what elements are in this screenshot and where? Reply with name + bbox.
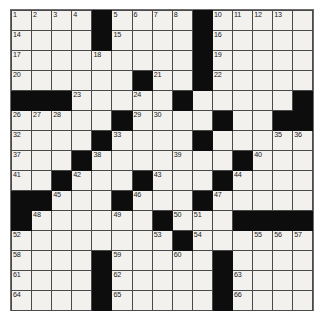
crossword-cell[interactable] xyxy=(72,191,92,211)
crossword-cell[interactable]: 54 xyxy=(192,231,212,251)
crossword-cell[interactable] xyxy=(273,191,293,211)
crossword-cell[interactable] xyxy=(92,171,112,191)
crossword-cell[interactable] xyxy=(132,251,152,271)
crossword-cell[interactable] xyxy=(212,211,232,231)
crossword-cell[interactable]: 55 xyxy=(253,231,273,251)
crossword-cell[interactable]: 65 xyxy=(112,291,132,311)
crossword-cell[interactable]: 49 xyxy=(112,211,132,231)
crossword-cell[interactable] xyxy=(72,271,92,291)
crossword-cell[interactable] xyxy=(293,11,313,31)
crossword-cell[interactable] xyxy=(112,91,132,111)
crossword-cell[interactable] xyxy=(52,51,72,71)
crossword-cell[interactable] xyxy=(32,291,52,311)
crossword-cell[interactable] xyxy=(253,271,273,291)
crossword-cell[interactable] xyxy=(273,291,293,311)
crossword-cell[interactable] xyxy=(32,71,52,91)
crossword-cell[interactable]: 61 xyxy=(12,271,32,291)
crossword-cell[interactable] xyxy=(152,131,172,151)
crossword-cell[interactable] xyxy=(273,151,293,171)
crossword-cell[interactable] xyxy=(192,171,212,191)
crossword-cell[interactable] xyxy=(172,191,192,211)
crossword-cell[interactable] xyxy=(273,91,293,111)
crossword-cell[interactable]: 60 xyxy=(172,251,192,271)
crossword-cell[interactable]: 57 xyxy=(293,231,313,251)
crossword-cell[interactable] xyxy=(273,171,293,191)
crossword-cell[interactable] xyxy=(293,191,313,211)
crossword-cell[interactable] xyxy=(172,271,192,291)
crossword-cell[interactable]: 40 xyxy=(253,151,273,171)
crossword-cell[interactable] xyxy=(132,151,152,171)
crossword-cell[interactable] xyxy=(112,171,132,191)
crossword-cell[interactable] xyxy=(32,171,52,191)
crossword-cell[interactable] xyxy=(233,51,253,71)
crossword-cell[interactable]: 48 xyxy=(32,211,52,231)
crossword-cell[interactable]: 64 xyxy=(12,291,32,311)
crossword-cell[interactable]: 2 xyxy=(32,11,52,31)
crossword-cell[interactable] xyxy=(72,51,92,71)
crossword-cell[interactable] xyxy=(253,171,273,191)
crossword-cell[interactable]: 38 xyxy=(92,151,112,171)
crossword-cell[interactable] xyxy=(52,251,72,271)
crossword-cell[interactable] xyxy=(273,31,293,51)
crossword-cell[interactable]: 41 xyxy=(12,171,32,191)
crossword-cell[interactable] xyxy=(92,91,112,111)
crossword-cell[interactable] xyxy=(273,71,293,91)
crossword-cell[interactable] xyxy=(132,131,152,151)
crossword-cell[interactable] xyxy=(72,111,92,131)
crossword-cell[interactable]: 14 xyxy=(12,31,32,51)
crossword-cell[interactable]: 33 xyxy=(112,131,132,151)
crossword-cell[interactable] xyxy=(293,271,313,291)
crossword-cell[interactable] xyxy=(233,231,253,251)
crossword-cell[interactable]: 21 xyxy=(152,71,172,91)
crossword-cell[interactable] xyxy=(72,231,92,251)
crossword-cell[interactable] xyxy=(52,271,72,291)
crossword-cell[interactable]: 3 xyxy=(52,11,72,31)
crossword-cell[interactable]: 16 xyxy=(212,31,232,51)
crossword-cell[interactable] xyxy=(253,191,273,211)
crossword-cell[interactable] xyxy=(273,251,293,271)
crossword-cell[interactable] xyxy=(72,71,92,91)
crossword-cell[interactable] xyxy=(72,131,92,151)
crossword-cell[interactable]: 45 xyxy=(52,191,72,211)
crossword-cell[interactable]: 6 xyxy=(132,11,152,31)
crossword-cell[interactable] xyxy=(192,271,212,291)
crossword-cell[interactable] xyxy=(293,51,313,71)
crossword-cell[interactable] xyxy=(212,91,232,111)
crossword-cell[interactable] xyxy=(293,251,313,271)
crossword-cell[interactable] xyxy=(152,51,172,71)
crossword-cell[interactable]: 26 xyxy=(12,111,32,131)
crossword-cell[interactable]: 29 xyxy=(132,111,152,131)
crossword-cell[interactable] xyxy=(132,231,152,251)
crossword-cell[interactable]: 30 xyxy=(152,111,172,131)
crossword-cell[interactable] xyxy=(253,251,273,271)
crossword-cell[interactable]: 22 xyxy=(212,71,232,91)
crossword-cell[interactable]: 39 xyxy=(172,151,192,171)
crossword-cell[interactable]: 36 xyxy=(293,131,313,151)
crossword-cell[interactable] xyxy=(233,111,253,131)
crossword-cell[interactable] xyxy=(212,151,232,171)
crossword-cell[interactable] xyxy=(293,171,313,191)
crossword-cell[interactable] xyxy=(152,291,172,311)
crossword-cell[interactable] xyxy=(52,31,72,51)
crossword-cell[interactable] xyxy=(52,211,72,231)
crossword-cell[interactable] xyxy=(172,71,192,91)
crossword-cell[interactable]: 19 xyxy=(212,51,232,71)
crossword-cell[interactable]: 10 xyxy=(212,11,232,31)
crossword-cell[interactable] xyxy=(293,31,313,51)
crossword-cell[interactable] xyxy=(293,291,313,311)
crossword-cell[interactable] xyxy=(273,271,293,291)
crossword-cell[interactable] xyxy=(273,51,293,71)
crossword-cell[interactable] xyxy=(172,111,192,131)
crossword-cell[interactable] xyxy=(172,31,192,51)
crossword-cell[interactable] xyxy=(192,291,212,311)
crossword-cell[interactable] xyxy=(72,291,92,311)
crossword-cell[interactable] xyxy=(172,171,192,191)
crossword-cell[interactable] xyxy=(112,71,132,91)
crossword-cell[interactable]: 58 xyxy=(12,251,32,271)
crossword-cell[interactable] xyxy=(132,51,152,71)
crossword-cell[interactable] xyxy=(132,31,152,51)
crossword-cell[interactable] xyxy=(92,211,112,231)
crossword-cell[interactable] xyxy=(92,111,112,131)
crossword-cell[interactable]: 56 xyxy=(273,231,293,251)
crossword-cell[interactable] xyxy=(72,31,92,51)
